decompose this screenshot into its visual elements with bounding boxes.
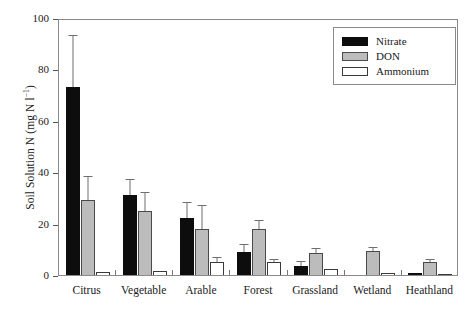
y-axis-tick-mark	[53, 276, 58, 277]
legend-label-nitrate: Nitrate	[376, 35, 407, 48]
bar-nitrate[interactable]	[123, 18, 137, 275]
legend-swatch-nitrate	[342, 37, 368, 46]
bar-chart-figure: Soil Solution N (mg N l−1) 020406080100 …	[0, 0, 468, 334]
x-axis-label: Wetland	[344, 284, 401, 296]
bar-rect-ammonium[interactable]	[267, 262, 281, 275]
bar-rect-don[interactable]	[252, 229, 266, 275]
bar-ammonium[interactable]	[210, 18, 224, 275]
error-bar	[258, 221, 259, 229]
error-bar	[243, 245, 244, 251]
y-axis-tick: 100	[0, 19, 58, 20]
bar-group-bars	[230, 18, 287, 275]
error-bar-cap	[297, 261, 306, 262]
chart-legend: Nitrate DON Ammonium	[333, 27, 456, 85]
error-bar	[273, 260, 274, 263]
bar-rect-nitrate[interactable]	[237, 252, 251, 275]
bar-nitrate[interactable]	[237, 18, 251, 275]
legend-swatch-don	[342, 52, 368, 61]
y-axis-tick-label: 40	[38, 165, 49, 180]
bar-don[interactable]	[252, 18, 266, 275]
error-bar	[186, 203, 187, 218]
bar-group-bars	[116, 18, 173, 275]
y-axis-tick-label: 100	[33, 11, 50, 26]
bar-rect-ammonium[interactable]	[324, 269, 338, 275]
x-axis-label: Arable	[172, 284, 229, 296]
x-axis-label: Grassland	[287, 284, 344, 296]
bar-group-bars	[173, 18, 230, 275]
bar-group-bars	[59, 18, 116, 275]
bar-group	[230, 18, 287, 275]
error-bar-cap	[212, 257, 221, 258]
bar-rect-ammonium[interactable]	[381, 273, 395, 275]
error-bar	[216, 258, 217, 262]
bar-nitrate[interactable]	[180, 18, 194, 275]
error-bar-cap	[369, 247, 378, 248]
bar-rect-ammonium[interactable]	[438, 274, 452, 275]
bar-don[interactable]	[309, 18, 323, 275]
y-axis-tick-label: 80	[38, 62, 49, 77]
error-bar-cap	[239, 244, 248, 245]
bar-ammonium[interactable]	[267, 18, 281, 275]
error-bar	[316, 249, 317, 253]
error-bar	[87, 177, 88, 200]
bar-rect-don[interactable]	[423, 262, 437, 275]
bar-rect-ammonium[interactable]	[210, 262, 224, 275]
y-axis-tick: 60	[0, 122, 58, 123]
legend-label-don: DON	[376, 50, 400, 63]
bar-rect-don[interactable]	[366, 251, 380, 275]
y-axis-title-exponent: −1	[22, 89, 31, 97]
bar-nitrate[interactable]	[66, 18, 80, 275]
error-bar-cap	[182, 202, 191, 203]
y-axis-tick-label: 0	[44, 268, 50, 283]
y-axis-tick: 80	[0, 70, 58, 71]
y-axis-title-tail: )	[24, 85, 36, 89]
bar-group	[173, 18, 230, 275]
bar-don[interactable]	[195, 18, 209, 275]
x-axis-label: Heathland	[401, 284, 458, 296]
error-bar-cap	[197, 205, 206, 206]
bar-don[interactable]	[81, 18, 95, 275]
bar-rect-don[interactable]	[309, 253, 323, 275]
error-bar-cap	[269, 259, 278, 260]
y-axis-title-text: Soil Solution N (mg N l	[24, 97, 36, 210]
x-axis-label: Vegetable	[115, 284, 172, 296]
bar-don[interactable]	[138, 18, 152, 275]
error-bar	[373, 248, 374, 251]
bar-ammonium[interactable]	[96, 18, 110, 275]
bar-rect-nitrate[interactable]	[294, 266, 308, 275]
error-bar-cap	[426, 259, 435, 260]
bar-rect-don[interactable]	[81, 200, 95, 275]
y-axis-tick: 20	[0, 225, 58, 226]
error-bar	[201, 206, 202, 229]
legend-item-ammonium: Ammonium	[342, 64, 448, 78]
bar-rect-nitrate[interactable]	[408, 273, 422, 275]
error-bar	[72, 36, 73, 87]
bar-ammonium[interactable]	[153, 18, 167, 275]
bar-rect-don[interactable]	[195, 229, 209, 275]
y-axis-tick-label: 60	[38, 114, 49, 129]
error-bar	[430, 260, 431, 262]
error-bar-cap	[125, 179, 134, 180]
bar-group	[59, 18, 116, 275]
bar-nitrate[interactable]	[294, 18, 308, 275]
legend-label-ammonium: Ammonium	[376, 65, 429, 78]
error-bar-cap	[140, 192, 149, 193]
legend-item-don: DON	[342, 49, 448, 63]
y-axis-tick: 0	[0, 276, 58, 277]
error-bar-cap	[254, 220, 263, 221]
error-bar	[129, 180, 130, 195]
error-bar-cap	[312, 248, 321, 249]
y-axis-tick-label: 20	[38, 217, 49, 232]
bar-rect-nitrate[interactable]	[180, 218, 194, 275]
error-bar-cap	[83, 176, 92, 177]
bar-rect-ammonium[interactable]	[153, 271, 167, 275]
legend-swatch-ammonium	[342, 67, 368, 76]
x-axis-label: Citrus	[58, 284, 115, 296]
bar-group	[116, 18, 173, 275]
bar-rect-ammonium[interactable]	[96, 272, 110, 275]
bar-rect-don[interactable]	[138, 211, 152, 275]
x-axis-label: Forest	[229, 284, 286, 296]
y-axis-title: Soil Solution N (mg N l−1)	[18, 19, 36, 276]
bar-rect-nitrate[interactable]	[66, 87, 80, 275]
bar-rect-nitrate[interactable]	[123, 195, 137, 275]
